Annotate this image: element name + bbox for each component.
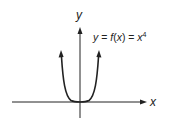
y-axis-arrow-icon: [78, 27, 83, 34]
x-axis-label: x: [149, 95, 157, 109]
y-axis-label: y: [75, 8, 83, 22]
x-axis-arrow-icon: [140, 100, 147, 105]
curve-right-arrow-icon: [96, 50, 101, 58]
graph-canvas: y x y = f(x) = x4: [0, 0, 171, 123]
curve-left-arrow-icon: [59, 50, 64, 58]
equation-label: y = f(x) = x4: [92, 31, 147, 43]
